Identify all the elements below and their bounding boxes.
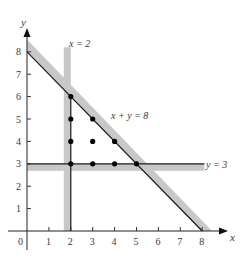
band-x-plus-y-8	[27, 39, 212, 231]
x-tick-label: 5	[134, 236, 139, 247]
x-tick-label: 7	[177, 236, 182, 247]
lattice-point	[112, 139, 117, 144]
x-tick-label: 3	[90, 236, 95, 247]
x-tick-label: 8	[199, 236, 204, 247]
label-y-equals-3: y = 3	[205, 159, 227, 170]
y-tick-label: 8	[16, 46, 21, 57]
lattice-point	[68, 94, 73, 99]
lattice-point	[112, 161, 117, 166]
lattice-point	[90, 116, 95, 121]
x-tick-label: 6	[155, 236, 160, 247]
y-tick-label: 6	[16, 91, 21, 102]
shaded-boundaries	[27, 39, 212, 231]
x-tick-label: 2	[68, 236, 73, 247]
lattice-point	[90, 161, 95, 166]
y-axis-label: y	[20, 16, 26, 28]
y-tick-label: 5	[16, 114, 21, 125]
x-axis-arrow-icon	[219, 228, 228, 235]
y-axis-arrow-icon	[24, 28, 31, 37]
y-tick-label: 3	[16, 158, 21, 169]
y-tick-label: 4	[16, 136, 21, 147]
x-tick-label: 1	[46, 236, 51, 247]
x-tick-label: 4	[112, 236, 117, 247]
y-tick-label: 2	[16, 181, 21, 192]
lattice-point	[68, 116, 73, 121]
origin-label: 0	[18, 236, 23, 247]
axis-ticks: 1234567812345678	[16, 46, 204, 247]
y-tick-label: 7	[16, 69, 21, 80]
inequality-graph: 1234567812345678 y x 0 x = 2 y = 3 x + y…	[0, 0, 247, 266]
y-tick-label: 1	[16, 203, 21, 214]
lattice-point	[134, 161, 139, 166]
label-x-equals-2: x = 2	[68, 38, 90, 49]
lattice-point	[90, 139, 95, 144]
x-axis-label: x	[229, 231, 235, 243]
lattice-point	[68, 161, 73, 166]
lattice-point	[68, 139, 73, 144]
label-x-plus-y-equals-8: x + y = 8	[110, 110, 148, 121]
